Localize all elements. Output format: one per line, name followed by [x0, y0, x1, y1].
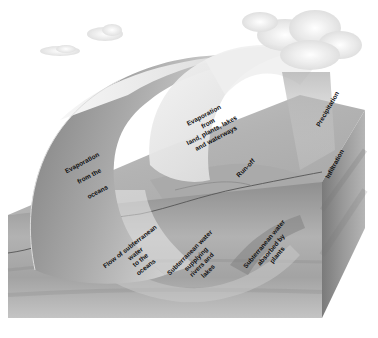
cloud-small-2	[40, 45, 80, 56]
water-cycle-diagram: Evaporation from the oceans Evaporation …	[0, 0, 378, 338]
cloud-small-1	[87, 24, 123, 41]
